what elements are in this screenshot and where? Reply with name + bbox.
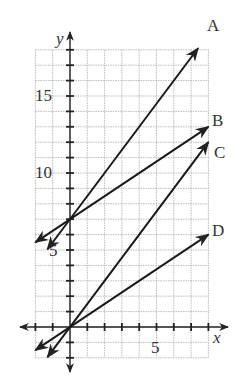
line-label-a: A <box>207 16 220 35</box>
coordinate-plane: y x 15 10 5 5 A B C D <box>0 0 242 386</box>
grid <box>35 50 208 358</box>
line-label-b: B <box>212 111 223 130</box>
line-label-d: D <box>212 221 224 240</box>
y-tick-label-15: 15 <box>35 86 52 105</box>
line-label-c: C <box>214 143 225 162</box>
x-axis-label: x <box>212 328 221 347</box>
x-tick-label-5: 5 <box>151 338 160 357</box>
y-tick-label-5: 5 <box>49 241 58 260</box>
y-tick-label-10: 10 <box>35 163 52 182</box>
y-axis-label: y <box>54 29 64 48</box>
